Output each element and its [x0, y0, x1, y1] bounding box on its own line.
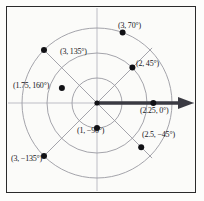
point-label-1p75-160: (1.75, 160°) — [13, 82, 49, 90]
point-label-3-70: (3, 70°) — [118, 22, 141, 30]
data-point — [120, 30, 126, 36]
point-label-1-neg90: (1, −90°) — [77, 127, 104, 135]
point-label-2-45: (2, 45°) — [136, 60, 159, 68]
point-label-2p25-0: (2.25, 0°) — [140, 107, 169, 115]
polar-grid-canvas — [0, 0, 204, 201]
data-point — [138, 144, 144, 150]
point-label-2p5-neg45: (2.5, −45°) — [142, 131, 175, 139]
point-label-3-135: (3, 135°) — [60, 48, 87, 56]
data-point — [59, 85, 65, 91]
origin-point — [94, 100, 99, 105]
data-point — [41, 47, 47, 53]
polar-plot-figure: (3, 70°) (3, 135°) (2, 45°) (1.75, 160°)… — [0, 0, 204, 201]
data-point — [129, 65, 135, 71]
point-label-3-neg135: (3, −135°) — [11, 155, 42, 163]
